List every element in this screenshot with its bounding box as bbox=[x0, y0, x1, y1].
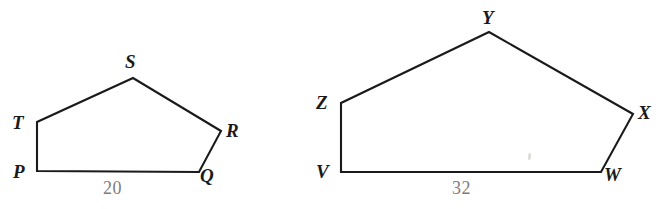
pentagon-pqrst-shape bbox=[37, 78, 221, 172]
vertex-label-r: R bbox=[226, 121, 239, 140]
vertex-label-v: V bbox=[316, 162, 329, 181]
side-length-pq: 20 bbox=[103, 179, 122, 197]
vertex-label-w: W bbox=[604, 165, 621, 184]
geometry-figure-canvas bbox=[0, 0, 666, 209]
vertex-label-y: Y bbox=[482, 8, 494, 27]
vertex-label-t: T bbox=[12, 113, 24, 132]
vertex-label-z: Z bbox=[316, 93, 328, 112]
vertex-label-p: P bbox=[13, 162, 25, 181]
pentagon-vwxyz-shape bbox=[341, 32, 633, 172]
vertex-label-s: S bbox=[125, 52, 136, 71]
vertex-label-q: Q bbox=[200, 166, 214, 185]
side-length-vw: 32 bbox=[452, 179, 471, 197]
vertex-label-x: X bbox=[638, 103, 651, 122]
